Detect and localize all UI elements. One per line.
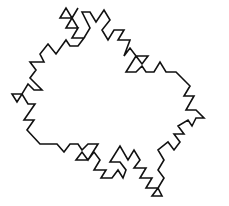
fractal-outline bbox=[12, 8, 204, 196]
fractal-drawing bbox=[0, 0, 229, 206]
